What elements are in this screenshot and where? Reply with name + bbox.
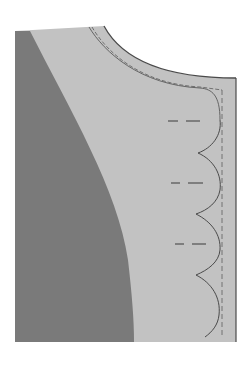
pattern-svg (0, 0, 249, 365)
pattern-diagram (0, 0, 249, 365)
